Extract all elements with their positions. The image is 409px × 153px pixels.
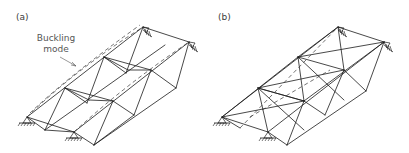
support-icon (259, 132, 276, 141)
support-icon (213, 117, 230, 126)
support-icon (189, 42, 198, 52)
dashed-hidden-members-b (240, 27, 338, 128)
support-icon (65, 132, 82, 141)
support-icon (384, 42, 393, 52)
truss-b (222, 27, 384, 145)
truss-diagrams (0, 0, 409, 153)
annotation-arrow (60, 57, 76, 66)
truss-a (27, 27, 189, 145)
